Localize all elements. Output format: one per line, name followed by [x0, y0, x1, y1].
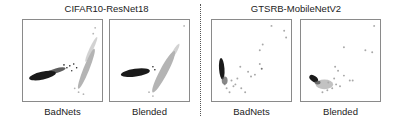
scatter-panel-gtsrb-badnets: [211, 19, 292, 102]
panel-label: BadNets: [211, 106, 292, 117]
scatter-plot: [212, 20, 291, 101]
group-title-gtsrb: GTSRB-MobileNetV2: [211, 3, 381, 14]
scatter-panel-gtsrb-blended: [300, 19, 381, 102]
scatter-plot: [301, 20, 380, 101]
panel-label: Blended: [109, 106, 190, 117]
group-divider: [200, 4, 201, 116]
scatter-panel-cifar-badnets: [22, 19, 103, 102]
group-title-cifar: CIFAR10-ResNet18: [22, 3, 191, 14]
scatter-plot: [110, 20, 189, 101]
panel-label: BadNets: [22, 106, 103, 117]
panel-label: Blended: [300, 106, 381, 117]
scatter-plot: [23, 20, 102, 101]
scatter-panel-cifar-blended: [109, 19, 190, 102]
